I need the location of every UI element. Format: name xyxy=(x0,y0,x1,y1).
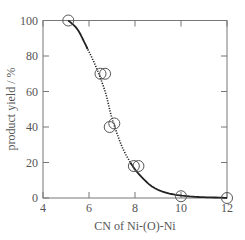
data-points xyxy=(63,15,233,204)
fit-curve-solid xyxy=(130,163,227,198)
x-tick-label: 10 xyxy=(175,201,187,215)
y-tick-label: 100 xyxy=(20,14,38,28)
axis-ticks: 4681012020406080100 xyxy=(20,14,233,216)
y-tick-label: 20 xyxy=(26,156,38,170)
fit-curve-dotted xyxy=(87,47,132,164)
y-tick-label: 0 xyxy=(32,191,38,205)
x-tick-label: 4 xyxy=(40,201,46,215)
x-tick-label: 8 xyxy=(132,201,138,215)
y-tick-label: 60 xyxy=(26,85,38,99)
fit-curve xyxy=(68,21,227,198)
chart: 4681012020406080100 CN of Ni-(O)-Ni prod… xyxy=(0,0,245,240)
y-tick-label: 40 xyxy=(26,120,38,134)
y-tick-label: 80 xyxy=(26,49,38,63)
x-axis-label: CN of Ni-(O)-Ni xyxy=(94,219,176,233)
y-axis-label: product yield / % xyxy=(4,68,18,151)
x-tick-label: 6 xyxy=(86,201,92,215)
